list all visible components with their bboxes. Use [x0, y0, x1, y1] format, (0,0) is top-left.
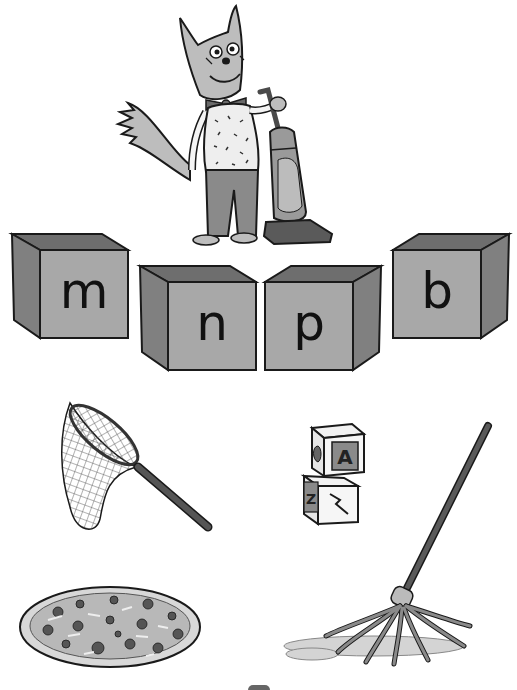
box-icon: m [10, 232, 130, 340]
box-letter: b [421, 262, 453, 320]
picture-net[interactable]: net [50, 395, 220, 545]
letter-box-m[interactable]: m [10, 232, 130, 340]
picture-label: mop [282, 676, 283, 677]
box-letter: n [196, 294, 228, 352]
box-icon: b [391, 232, 511, 340]
butterfly-net-icon [50, 395, 220, 545]
box-letter: p [293, 294, 325, 352]
picture-label: pizza [18, 672, 19, 673]
letter-box-b[interactable]: b [391, 232, 511, 340]
mop-icon [282, 418, 512, 676]
pizza-icon [18, 582, 203, 672]
box-icon: n [138, 264, 258, 372]
letter-box-n[interactable]: n [138, 264, 258, 372]
partial-shape [248, 685, 270, 690]
box-letter: m [60, 262, 109, 320]
fox-with-vacuum-icon [110, 0, 350, 250]
picture-mop[interactable]: mop [282, 418, 512, 676]
picture-label: net [50, 545, 51, 546]
letter-box-p[interactable]: p [263, 264, 383, 372]
picture-pizza[interactable]: pizza [18, 582, 203, 672]
box-icon: p [263, 264, 383, 372]
fox-character-illustration [110, 0, 350, 250]
